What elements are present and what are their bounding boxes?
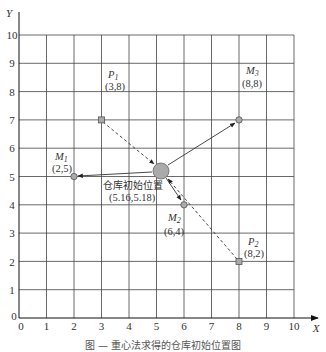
point-p2-square xyxy=(236,258,242,264)
point-m2-circle xyxy=(181,202,187,208)
svg-text:7: 7 xyxy=(9,114,15,126)
svg-text:10: 10 xyxy=(289,320,301,332)
x-tick-labels: 0 0 1 2 3 4 5 6 7 8 9 10 xyxy=(11,310,300,332)
svg-text:1: 1 xyxy=(44,320,50,332)
m1-coord: (2,5) xyxy=(52,163,73,175)
y-tick-labels: 10 9 8 7 6 5 4 3 2 1 xyxy=(7,29,19,296)
m3-coord: (8,8) xyxy=(242,78,263,90)
svg-text:3: 3 xyxy=(99,320,105,332)
svg-text:8: 8 xyxy=(236,320,242,332)
svg-text:0: 0 xyxy=(18,320,24,332)
warehouse-coord: (5.16,5.18) xyxy=(109,192,156,204)
svg-text:5: 5 xyxy=(9,171,15,183)
y-axis-label: Y xyxy=(6,7,14,19)
svg-text:8: 8 xyxy=(9,86,15,98)
flow-warehouse-m1 xyxy=(78,172,152,176)
svg-text:3: 3 xyxy=(9,227,15,239)
svg-text:5: 5 xyxy=(154,320,160,332)
svg-text:10: 10 xyxy=(7,29,19,41)
m2-name: M2 xyxy=(167,212,181,225)
svg-text:0: 0 xyxy=(11,310,17,322)
m3-name: M3 xyxy=(245,65,259,78)
point-m1-circle xyxy=(71,173,77,179)
svg-text:4: 4 xyxy=(126,320,132,332)
flow-warehouse-m2 xyxy=(166,178,181,200)
point-warehouse-circle xyxy=(153,163,169,179)
svg-text:9: 9 xyxy=(264,320,270,332)
p1-coord: (3,8) xyxy=(105,81,126,93)
warehouse-name: 仓库初始位置 xyxy=(103,179,163,191)
svg-text:6: 6 xyxy=(181,320,187,332)
svg-text:1: 1 xyxy=(9,284,15,296)
x-axis-label: X xyxy=(312,322,321,334)
p2-coord: (8,2) xyxy=(244,248,265,260)
point-m3-circle xyxy=(236,117,242,123)
point-labels: P1 (3,8) M3 (8,8) M1 (2,5) 仓库初始位置 (5.16,… xyxy=(52,65,265,260)
svg-text:9: 9 xyxy=(9,57,15,69)
figure-caption: 图 — 重心法求得的仓库初始位置图 xyxy=(0,337,326,352)
svg-text:2: 2 xyxy=(71,320,77,332)
m2-coord: (6,4) xyxy=(164,226,185,238)
svg-text:2: 2 xyxy=(9,256,15,268)
flow-warehouse-m3 xyxy=(168,123,235,165)
svg-text:7: 7 xyxy=(209,320,215,332)
point-p1-square xyxy=(99,117,105,123)
svg-text:6: 6 xyxy=(9,142,15,154)
flow-p1-warehouse xyxy=(103,122,154,164)
svg-text:4: 4 xyxy=(9,199,15,211)
